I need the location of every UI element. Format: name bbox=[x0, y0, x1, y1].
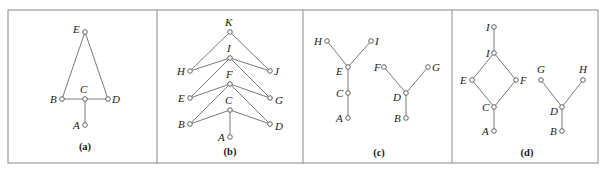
node-label-f: F bbox=[519, 74, 527, 86]
hasse-diagram-figure: EBCDA(a)KIHJFEGCBDA(b)HIECAFGDB(c)IIEFCA… bbox=[0, 0, 605, 173]
node-t bbox=[492, 25, 497, 30]
node-a bbox=[228, 135, 233, 140]
node-g bbox=[539, 78, 544, 83]
node-k bbox=[228, 30, 233, 35]
node-b bbox=[188, 122, 193, 127]
node-e bbox=[346, 65, 351, 70]
node-d bbox=[268, 122, 273, 127]
node-f bbox=[228, 82, 233, 87]
node-label-c: C bbox=[482, 101, 490, 113]
node-g bbox=[426, 65, 431, 70]
node-label-c: C bbox=[80, 83, 88, 95]
node-f bbox=[382, 65, 387, 70]
node-b bbox=[60, 97, 65, 102]
node-c bbox=[346, 91, 351, 96]
node-c bbox=[83, 97, 88, 102]
node-e bbox=[83, 30, 88, 35]
figure-frame bbox=[8, 10, 598, 163]
panel-c: HIECAFGDB(c) bbox=[313, 35, 440, 159]
edge-E-D bbox=[85, 32, 108, 99]
node-label-f: F bbox=[373, 61, 381, 73]
node-label-d: D bbox=[111, 93, 120, 105]
node-label-a: A bbox=[481, 125, 489, 137]
node-label-e: E bbox=[459, 74, 467, 86]
panel-d: IIEFCAGHDB(d) bbox=[459, 21, 588, 159]
node-label-d: D bbox=[392, 91, 401, 103]
panel-caption: (b) bbox=[224, 146, 237, 158]
node-b bbox=[404, 116, 409, 121]
node-label-h: H bbox=[313, 35, 323, 47]
edge-F-D bbox=[384, 67, 406, 93]
node-label-e: E bbox=[72, 23, 80, 35]
node-label-k: K bbox=[224, 16, 233, 28]
edge-H-E bbox=[327, 41, 348, 67]
node-label-b: B bbox=[178, 118, 185, 130]
node-d bbox=[404, 91, 409, 96]
node-label-c: C bbox=[336, 87, 344, 99]
node-label-a: A bbox=[72, 119, 80, 131]
node-b bbox=[560, 129, 565, 134]
node-a bbox=[492, 129, 497, 134]
node-i bbox=[492, 51, 497, 56]
panels: EBCDA(a)KIHJFEGCBDA(b)HIECAFGDB(c)IIEFCA… bbox=[50, 16, 588, 159]
node-label-g: G bbox=[275, 94, 283, 106]
node-label-b: B bbox=[394, 112, 401, 124]
node-label-b: B bbox=[50, 93, 57, 105]
node-j bbox=[268, 69, 273, 74]
node-h bbox=[188, 69, 193, 74]
panel-caption: (d) bbox=[521, 147, 534, 159]
node-label-d: D bbox=[274, 120, 283, 132]
node-e bbox=[470, 78, 475, 83]
edge-C-D bbox=[230, 110, 270, 124]
node-a bbox=[83, 123, 88, 128]
node-i bbox=[369, 39, 374, 44]
node-e bbox=[188, 96, 193, 101]
node-label-a: A bbox=[217, 131, 225, 143]
node-label-i: I bbox=[226, 42, 232, 54]
node-c bbox=[492, 105, 497, 110]
panel-caption: (a) bbox=[79, 141, 92, 153]
edge-K-J bbox=[230, 32, 270, 71]
node-label-b: B bbox=[550, 125, 557, 137]
panel-caption: (c) bbox=[373, 147, 385, 159]
node-i bbox=[228, 56, 233, 61]
edge-C-B bbox=[190, 110, 230, 124]
edge-I-F bbox=[494, 53, 516, 80]
node-a bbox=[346, 116, 351, 121]
edge-F-E bbox=[190, 84, 230, 98]
node-d bbox=[560, 105, 565, 110]
node-label-h: H bbox=[176, 65, 186, 77]
edge-F-G bbox=[230, 84, 270, 98]
edge-G-D bbox=[541, 80, 562, 107]
node-label-i: I bbox=[374, 35, 380, 47]
node-label-t: I bbox=[485, 21, 491, 33]
node-label-f: F bbox=[225, 68, 233, 80]
edge-F-C bbox=[494, 80, 516, 107]
node-label-e: E bbox=[335, 65, 343, 77]
node-h bbox=[581, 78, 586, 83]
panel-a: EBCDA(a) bbox=[50, 23, 120, 153]
edge-F-B bbox=[190, 84, 230, 124]
node-c bbox=[228, 108, 233, 113]
node-label-g: G bbox=[432, 61, 440, 73]
node-label-h: H bbox=[578, 63, 588, 75]
node-label-e: E bbox=[177, 92, 185, 104]
node-g bbox=[268, 96, 273, 101]
node-h bbox=[325, 39, 330, 44]
node-d bbox=[106, 97, 111, 102]
node-label-a: A bbox=[335, 112, 343, 124]
node-label-j: J bbox=[274, 65, 280, 77]
edge-H-D bbox=[562, 80, 583, 107]
node-f bbox=[514, 78, 519, 83]
node-label-g: G bbox=[537, 63, 545, 75]
edge-F-D bbox=[230, 84, 270, 124]
edge-I-E bbox=[348, 41, 371, 67]
panel-b: KIHJFEGCBDA(b) bbox=[176, 16, 283, 158]
diagram-canvas: EBCDA(a)KIHJFEGCBDA(b)HIECAFGDB(c)IIEFCA… bbox=[0, 0, 605, 173]
node-label-d: D bbox=[549, 105, 558, 117]
edge-I-E bbox=[472, 53, 494, 80]
edge-G-D bbox=[406, 67, 428, 93]
edge-K-H bbox=[190, 32, 230, 71]
node-label-c: C bbox=[225, 94, 233, 106]
